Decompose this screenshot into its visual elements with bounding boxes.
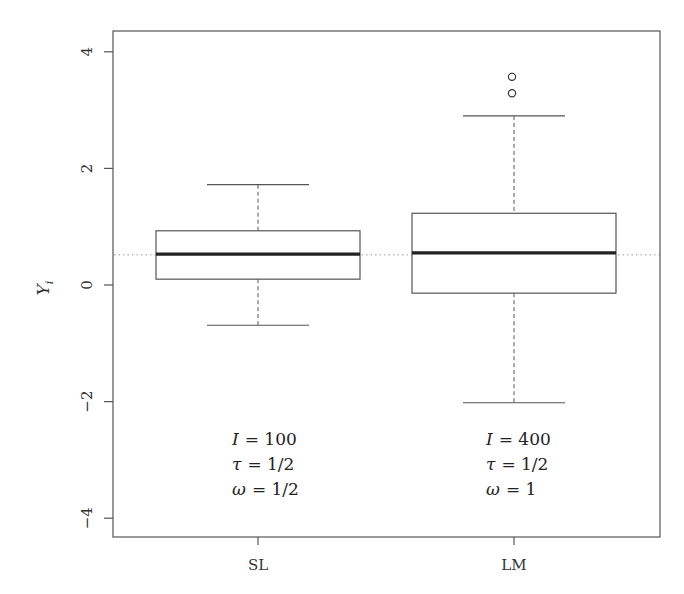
y-axis: −4−2024 — [78, 47, 113, 529]
box-lm — [412, 73, 616, 402]
y-tick-label: −2 — [78, 391, 96, 413]
annotation-sl: I= 100τ= 1/2ω= 1/2 — [231, 429, 299, 499]
annotations: I= 100τ= 1/2ω= 1/2I= 400τ= 1/2ω= 1 — [231, 429, 551, 499]
boxplot-chart: −4−2024 SLLM I= 100τ= 1/2ω= 1/2I= 400τ= … — [0, 0, 684, 594]
y-tick-label: 4 — [78, 47, 96, 57]
x-axis: SLLM — [248, 537, 527, 574]
x-tick-label: LM — [501, 556, 526, 574]
y-tick-label: −4 — [78, 507, 96, 529]
annotation-line: I= 400 — [485, 429, 551, 449]
annotation-line: I= 100 — [231, 429, 297, 449]
annotation-line: τ= 1/2 — [232, 454, 294, 474]
outlier-point — [508, 90, 515, 97]
outlier-point — [508, 73, 515, 80]
box-sl — [156, 185, 360, 326]
x-tick-label: SL — [248, 556, 268, 574]
y-axis-label: Yi — [33, 281, 56, 296]
annotation-line: ω= 1/2 — [232, 479, 299, 499]
annotation-line: τ= 1/2 — [486, 454, 548, 474]
boxes — [156, 73, 616, 402]
annotation-line: ω= 1 — [486, 479, 536, 499]
y-tick-label: 2 — [78, 164, 96, 174]
annotation-lm: I= 400τ= 1/2ω= 1 — [485, 429, 551, 499]
y-tick-label: 0 — [78, 280, 96, 290]
y-axis-label-sub: i — [43, 281, 56, 285]
